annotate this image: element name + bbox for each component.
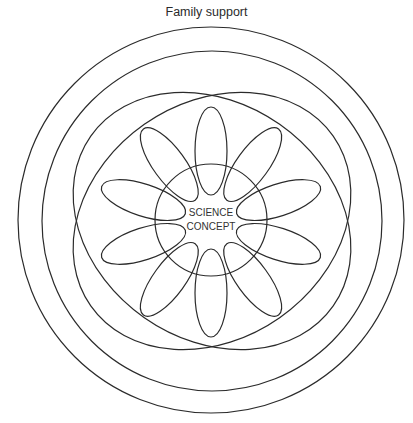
science-concept-label: SCIENCE CONCEPT [161, 206, 261, 234]
petal-6 [195, 249, 227, 337]
center-label-line1: SCIENCE [161, 206, 261, 220]
petal-1 [195, 107, 227, 195]
family-support-label: Family support [0, 5, 413, 19]
center-label-line2: CONCEPT [161, 220, 261, 234]
